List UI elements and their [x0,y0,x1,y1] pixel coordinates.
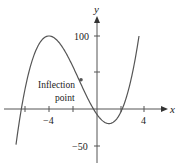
y-axis-arrow-icon [94,16,100,23]
inflection-point-marker [79,78,83,82]
y-tick-label-100: 100 [74,31,89,42]
y-tick-label-neg50: −50 [72,141,88,152]
chart: x y −4 4 100 −50 Inflection point [0,0,179,167]
annotation-point: point [55,93,75,103]
x-axis-label: x [169,103,175,115]
annotation-inflection: Inflection [38,80,75,90]
x-tick-label-neg4: −4 [43,115,54,126]
y-axis-label: y [93,3,99,15]
x-tick-label-4: 4 [141,115,146,126]
x-axis-arrow-icon [161,106,168,112]
cubic-curve [16,36,139,145]
